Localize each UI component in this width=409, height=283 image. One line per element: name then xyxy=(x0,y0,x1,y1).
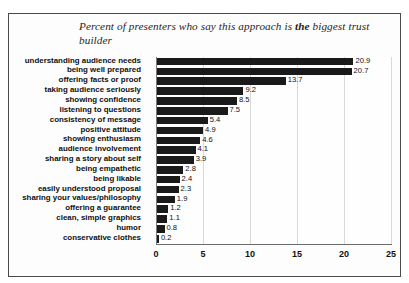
bar xyxy=(157,205,168,213)
x-tick-label: 0 xyxy=(153,249,158,259)
bar-value-label: 2.8 xyxy=(185,164,196,174)
bar-value-label: 2.4 xyxy=(182,174,193,184)
bar xyxy=(157,97,237,105)
bar xyxy=(157,107,228,115)
bar xyxy=(157,137,200,145)
bar xyxy=(157,146,196,154)
bar-row: being likable2.4 xyxy=(156,175,391,185)
bar xyxy=(157,127,203,135)
x-tick-label: 10 xyxy=(245,249,255,259)
x-axis-line xyxy=(156,244,392,245)
bar-row: positive attitude4.9 xyxy=(156,126,391,136)
category-label: positive attitude xyxy=(80,125,141,135)
bar-row: listening to questions7.5 xyxy=(156,106,391,116)
x-tick-label: 25 xyxy=(386,249,396,259)
bar-value-label: 1.9 xyxy=(177,194,188,204)
bar-row: showing confidence8.5 xyxy=(156,96,391,106)
chart-title-emphasis: the xyxy=(295,20,310,32)
bar xyxy=(157,235,159,243)
category-label: showing confidence xyxy=(65,95,141,105)
chart-screenshot: Percent of presenters who say this appro… xyxy=(0,0,409,283)
page-frame: Percent of presenters who say this appro… xyxy=(8,13,401,277)
gridline-25 xyxy=(391,57,392,244)
bar-row: consistency of message5.4 xyxy=(156,116,391,126)
plot-region: understanding audience needs20.9being we… xyxy=(156,57,391,244)
bar-row: audience involvement4.1 xyxy=(156,146,391,156)
bar-value-label: 1.2 xyxy=(170,203,181,213)
bar xyxy=(157,117,208,125)
bar-value-label: 3.9 xyxy=(196,154,207,164)
bar xyxy=(157,215,167,223)
category-label: being likable xyxy=(93,174,141,184)
chart-title-text-before: Percent of presenters who say this appro… xyxy=(79,20,295,32)
bar xyxy=(157,156,194,164)
bar-row: easily understood proposal2.3 xyxy=(156,185,391,195)
category-label: sharing your values/philosophy xyxy=(22,193,141,203)
bar-value-label: 2.3 xyxy=(181,184,192,194)
category-label: consistency of message xyxy=(50,115,141,125)
bar xyxy=(157,58,353,66)
bar-row: showing enthusiasm4.6 xyxy=(156,136,391,146)
bar-row: offering a guarantee1.2 xyxy=(156,205,391,215)
x-tick-label: 15 xyxy=(292,249,302,259)
category-label: humor xyxy=(116,223,141,233)
category-label: being well prepared xyxy=(67,65,141,75)
bar-row: offering facts or proof13.7 xyxy=(156,77,391,87)
category-label: offering a guarantee xyxy=(65,203,141,213)
category-label: easily understood proposal xyxy=(38,184,141,194)
bar-row: sharing your values/philosophy1.9 xyxy=(156,195,391,205)
bar xyxy=(157,77,286,85)
x-tick-label: 20 xyxy=(339,249,349,259)
bar-row: clean, simple graphics1.1 xyxy=(156,214,391,224)
bar-value-label: 20.9 xyxy=(355,56,370,66)
bar xyxy=(157,87,243,95)
category-label: clean, simple graphics xyxy=(56,213,141,223)
bar xyxy=(157,225,165,233)
bar xyxy=(157,176,180,184)
bar-value-label: 1.1 xyxy=(169,213,180,223)
bar-value-label: 20.7 xyxy=(354,66,369,76)
bar-value-label: 4.9 xyxy=(205,125,216,135)
bar-value-label: 5.4 xyxy=(210,115,221,125)
category-label: showing enthusiasm xyxy=(63,134,141,144)
bar-value-label: 7.5 xyxy=(230,105,241,115)
bar-value-label: 0.8 xyxy=(167,223,178,233)
x-tick-label: 5 xyxy=(200,249,205,259)
bar-value-label: 4.6 xyxy=(202,135,213,145)
bar-value-label: 4.1 xyxy=(198,144,209,154)
chart-title: Percent of presenters who say this appro… xyxy=(79,20,379,47)
bar-row: humor0.8 xyxy=(156,224,391,234)
bar-value-label: 8.5 xyxy=(239,95,250,105)
category-label: listening to questions xyxy=(59,105,141,115)
category-label: taking audience seriously xyxy=(45,85,141,95)
bar xyxy=(157,68,352,76)
bar-value-label: 9.2 xyxy=(245,85,256,95)
category-label: offering facts or proof xyxy=(59,75,141,85)
bar-value-label: 13.7 xyxy=(288,75,303,85)
category-label: sharing a story about self xyxy=(45,154,141,164)
bar-row: conservative clothes0.2 xyxy=(156,234,391,244)
bar xyxy=(157,196,175,204)
category-label: being empathetic xyxy=(76,164,141,174)
category-label: conservative clothes xyxy=(63,233,141,243)
bar-row: taking audience seriously9.2 xyxy=(156,87,391,97)
chart-area: Percent of presenters who say this appro… xyxy=(9,14,402,278)
bar-row: being well prepared20.7 xyxy=(156,67,391,77)
bar-value-label: 0.2 xyxy=(161,233,172,243)
bar xyxy=(157,186,179,194)
bar xyxy=(157,166,183,174)
